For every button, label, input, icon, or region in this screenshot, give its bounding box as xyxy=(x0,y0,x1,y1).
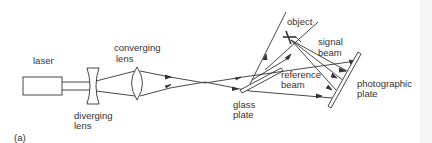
converging-lens xyxy=(132,67,143,100)
photographic-plate-label-2: plate xyxy=(357,89,378,99)
laser-label: laser xyxy=(33,56,54,66)
converging-lens-label-1: converging xyxy=(114,43,160,53)
glass-plate xyxy=(240,68,283,93)
diverging-lens-label-2: lens xyxy=(74,121,91,131)
object-label: object xyxy=(287,17,312,27)
holography-diagram: laser converging lens diverging lens gla… xyxy=(0,0,432,143)
panel-label: (a) xyxy=(14,133,26,143)
reference-beam-label-2: beam xyxy=(281,80,305,90)
converging-lens-label-2: lens xyxy=(116,54,133,64)
laser-body xyxy=(23,77,62,95)
optics-drawing xyxy=(0,0,432,143)
signal-beam-label-2: beam xyxy=(318,48,342,58)
diverging-lens xyxy=(87,68,99,104)
glass-plate-label-2: plate xyxy=(233,110,254,120)
signal-beam-label-1: signal xyxy=(318,37,343,47)
